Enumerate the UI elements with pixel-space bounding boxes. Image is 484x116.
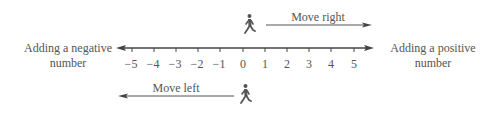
- move-left-label: Move left: [136, 81, 216, 95]
- tick-label: −3: [165, 57, 185, 71]
- tick-label: −2: [187, 57, 207, 71]
- tick-label: −4: [143, 57, 163, 71]
- tick-label: 3: [299, 57, 319, 71]
- walking-person-icon: [241, 84, 251, 103]
- tick-label: −1: [209, 57, 229, 71]
- left-label-line2: number: [8, 56, 128, 70]
- move-right-label: Move right: [278, 10, 358, 24]
- right-label-line2: number: [373, 56, 484, 70]
- tick-label: 2: [277, 57, 297, 71]
- left-label-line1: Adding a negative: [8, 41, 128, 55]
- tick-label: 5: [344, 57, 364, 71]
- tick-label: 4: [321, 57, 341, 71]
- tick-label: 1: [255, 57, 275, 71]
- right-label-line1: Adding a positive: [373, 41, 484, 55]
- tick-label: 0: [233, 57, 253, 71]
- walking-person-icon: [245, 14, 255, 33]
